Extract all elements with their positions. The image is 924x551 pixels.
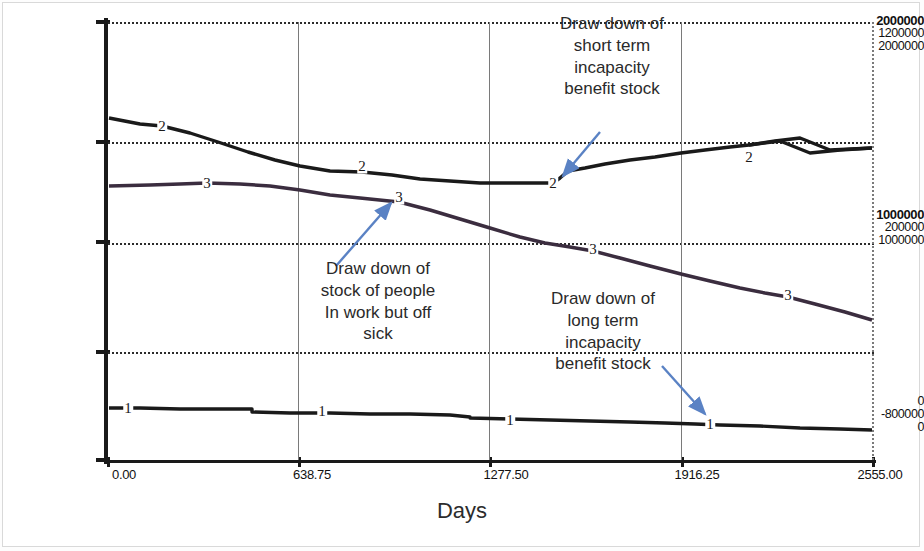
x-axis-tick-label: 1916.25	[675, 467, 720, 482]
series-marker-1: 1	[123, 401, 133, 416]
gridline-horizontal	[108, 22, 874, 24]
series-marker-2: 2	[157, 119, 167, 134]
series-marker-3: 3	[202, 176, 212, 191]
series-marker-3: 3	[394, 190, 404, 205]
series-marker-3: 3	[783, 288, 793, 303]
annotation-in-work-off-sick: Draw down of stock of people In work but…	[278, 258, 478, 345]
x-axis-tick	[107, 457, 110, 467]
series-marker-1: 1	[705, 417, 715, 432]
series-marker-2: 2	[357, 159, 367, 174]
x-axis-tick-label: 2555.00	[858, 467, 903, 482]
x-axis-title: Days	[0, 498, 924, 524]
gridline-horizontal	[108, 243, 874, 245]
x-axis-tick-label: 638.75	[293, 467, 331, 482]
gridline-vertical	[872, 22, 874, 460]
gridline-horizontal	[108, 142, 874, 144]
series-marker-3: 3	[588, 242, 598, 257]
chart-page: 2000000 1200000 2000000 1000000 200000 1…	[0, 0, 924, 551]
gridline-vertical	[298, 22, 299, 460]
gridline-horizontal	[108, 352, 874, 354]
series-marker-2: 2	[744, 150, 754, 165]
series-marker-1: 1	[505, 413, 515, 428]
gridline-vertical	[489, 22, 490, 460]
x-axis-tick-label: 1277.50	[484, 467, 529, 482]
series-marker-1: 1	[317, 404, 327, 419]
x-axis-tick-label: 0.00	[112, 467, 136, 482]
annotation-long-term: Draw down of long term incapacity benefi…	[508, 288, 698, 375]
series-marker-2: 2	[548, 176, 558, 191]
annotation-short-term: Draw down of short term incapacity benef…	[517, 13, 707, 100]
